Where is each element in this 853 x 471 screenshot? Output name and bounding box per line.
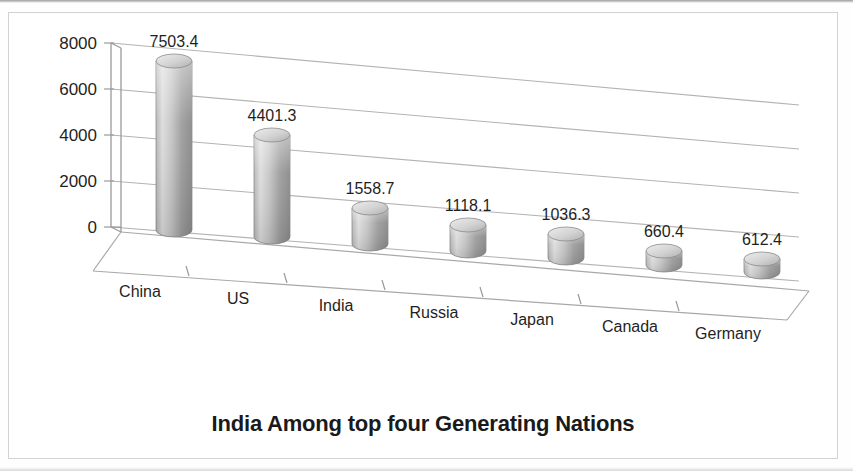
scan-bottom-edge (0, 467, 853, 471)
data-label: 660.4 (644, 223, 684, 240)
category-labels: China US India Russia Japan Canada Germa… (119, 283, 761, 342)
data-labels: 7503.4 4401.3 1558.7 1118.1 1036.3 660.4… (150, 33, 783, 248)
scanned-page-background: 8000 6000 4000 2000 0 (0, 0, 853, 471)
category-label: Germany (695, 325, 761, 342)
y-tick-label: 0 (88, 218, 97, 237)
y-tick-label: 4000 (59, 126, 97, 145)
bar-chart-3d: 8000 6000 4000 2000 0 (9, 13, 837, 458)
bar-cylinder (156, 54, 192, 237)
category-label: Russia (410, 304, 459, 321)
bar-cylinder (548, 227, 584, 265)
chart-title: India Among top four Generating Nations (9, 411, 837, 437)
category-label: India (319, 297, 354, 314)
y-axis-tick-labels: 8000 6000 4000 2000 0 (59, 34, 97, 237)
bar-cylinder (450, 218, 486, 258)
bar-cylinder (254, 128, 290, 244)
category-label: US (227, 290, 249, 307)
data-label: 1558.7 (346, 180, 395, 197)
data-label: 4401.3 (248, 107, 297, 124)
data-label: 612.4 (742, 231, 782, 248)
y-tick-label: 2000 (59, 172, 97, 191)
category-label: Japan (510, 311, 554, 328)
bar-cylinder (744, 252, 780, 279)
bar-cylinder (646, 244, 682, 272)
scan-top-edge (0, 0, 853, 3)
y-tick-label: 6000 (59, 80, 97, 99)
bar-cylinder (352, 201, 388, 251)
data-label: 1036.3 (542, 206, 591, 223)
y-tick-label: 8000 (59, 34, 97, 53)
data-label: 1118.1 (445, 197, 492, 214)
value-axis (104, 43, 121, 232)
data-label: 7503.4 (150, 33, 199, 50)
chart-frame: 8000 6000 4000 2000 0 (8, 12, 838, 459)
category-label: China (119, 283, 161, 300)
category-label: Canada (602, 318, 658, 335)
